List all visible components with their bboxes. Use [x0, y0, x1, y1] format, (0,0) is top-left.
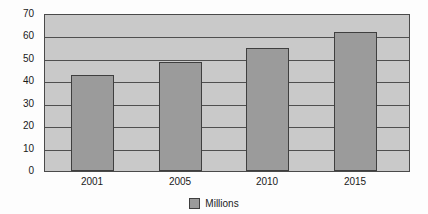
y-axis-tick-label: 20	[0, 121, 34, 131]
plot-area	[44, 14, 410, 172]
y-axis-tick-label: 30	[0, 99, 34, 109]
bar-chart: 70 60 50 40 30 20 10 0 2001 2005 2010 20…	[0, 0, 428, 214]
x-axis: 2001 2005 2010 2015	[44, 176, 410, 192]
y-axis-tick-label: 10	[0, 144, 34, 154]
x-axis-tick-label: 2005	[154, 176, 206, 188]
bar-2001	[71, 75, 114, 171]
y-axis-tick-label: 40	[0, 76, 34, 86]
chart-legend: Millions	[0, 195, 428, 211]
x-axis-tick-label: 2015	[329, 176, 381, 188]
y-axis-tick-label: 0	[0, 166, 34, 176]
legend-item-label: Millions	[205, 198, 238, 209]
y-axis: 70 60 50 40 30 20 10 0	[0, 0, 40, 214]
bar-2010	[246, 48, 289, 171]
legend-swatch-icon	[189, 198, 200, 209]
y-axis-tick-label: 70	[0, 9, 34, 19]
bar-2015	[334, 32, 377, 171]
x-axis-tick-label: 2001	[66, 176, 118, 188]
y-axis-tick-label: 60	[0, 31, 34, 41]
bar-2005	[159, 62, 202, 171]
y-axis-tick-label: 50	[0, 54, 34, 64]
x-axis-tick-label: 2010	[241, 176, 293, 188]
